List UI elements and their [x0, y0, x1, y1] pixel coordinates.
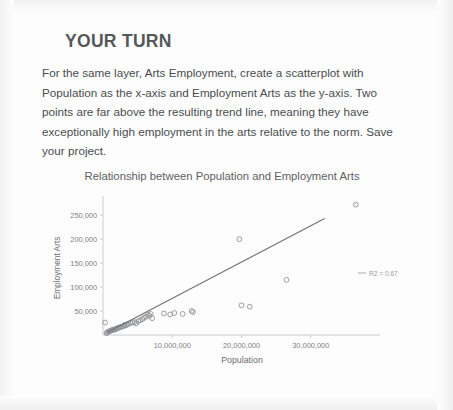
chart-axes — [103, 196, 380, 335]
scatter-point — [172, 311, 177, 316]
x-axis-ticks: 10,000,00020,000,00030,000,000 — [154, 335, 330, 350]
x-tick-label: 10,000,000 — [154, 341, 191, 350]
x-axis-label: Population — [221, 355, 263, 365]
scatter-point — [162, 311, 167, 316]
legend-label: R2 = 0.67 — [369, 270, 398, 277]
scatter-point — [353, 202, 358, 207]
y-axis-ticks: 50,000100,000150,000200,000250,000 — [70, 211, 103, 316]
trend-line — [107, 219, 324, 333]
y-tick-label: 100,000 — [70, 283, 97, 292]
y-tick-label: 200,000 — [70, 235, 97, 244]
scatter-point — [239, 303, 244, 308]
instruction-paragraph: For the same layer, Arts Employment, cre… — [42, 63, 398, 161]
y-tick-label: 50,000 — [74, 307, 97, 316]
y-tick-label: 250,000 — [70, 211, 97, 220]
y-tick-label: 150,000 — [70, 259, 97, 268]
scatter-point — [247, 304, 252, 309]
x-tick-label: 30,000,000 — [292, 341, 329, 350]
x-tick-label: 20,000,000 — [223, 341, 260, 350]
page: YOUR TURN For the same layer, Arts Emplo… — [0, 0, 453, 410]
scatter-point — [191, 310, 196, 315]
scatter-point — [284, 277, 289, 282]
scatterplot-figure: Relationship between Population and Empl… — [42, 168, 422, 373]
legend: R2 = 0.67 — [358, 270, 398, 277]
content-area: YOUR TURN For the same layer, Arts Emplo… — [0, 0, 453, 410]
y-axis-label: Employment Arts — [52, 237, 62, 300]
scatter-chart-svg: 50,000100,000150,000200,000250,000 10,00… — [42, 168, 422, 373]
section-heading: YOUR TURN — [65, 31, 172, 52]
scatter-point — [180, 312, 185, 317]
scatter-points — [103, 202, 358, 335]
scatter-point — [237, 237, 242, 242]
